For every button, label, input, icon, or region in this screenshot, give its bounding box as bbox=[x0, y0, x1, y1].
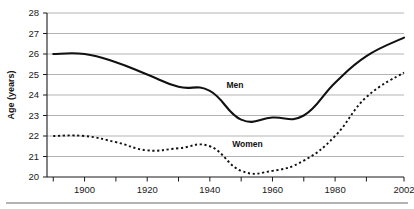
x-tick-label: 1960 bbox=[262, 184, 283, 195]
series-annotation-men: Men bbox=[226, 80, 243, 90]
y-axis-title-text: Age (years) bbox=[6, 70, 16, 119]
y-tick-label: 25 bbox=[28, 69, 39, 80]
plot-background bbox=[0, 0, 414, 209]
x-tick-label: 1980 bbox=[325, 184, 346, 195]
y-tick-label: 20 bbox=[28, 171, 39, 182]
y-tick-label: 26 bbox=[28, 48, 39, 59]
y-axis-title: Age (years) bbox=[6, 70, 16, 119]
age-at-first-marriage-line-chart: 202122232425262728 190019201940196019802… bbox=[0, 0, 414, 209]
x-tick-label: 1920 bbox=[137, 184, 158, 195]
y-tick-label: 23 bbox=[28, 110, 39, 121]
y-tick-label: 27 bbox=[28, 28, 39, 39]
y-tick-label: 22 bbox=[28, 130, 39, 141]
x-tick-label: 1900 bbox=[74, 184, 95, 195]
y-tick-label: 21 bbox=[28, 151, 39, 162]
series-annotation-women: Women bbox=[232, 139, 263, 149]
x-tick-label: 2002 bbox=[393, 184, 414, 195]
y-tick-label: 28 bbox=[28, 7, 39, 18]
chart-figure: 202122232425262728 190019201940196019802… bbox=[0, 0, 414, 209]
y-tick-labels: 202122232425262728 bbox=[28, 7, 39, 182]
y-tick-label: 24 bbox=[28, 89, 39, 100]
x-tick-label: 1940 bbox=[199, 184, 220, 195]
